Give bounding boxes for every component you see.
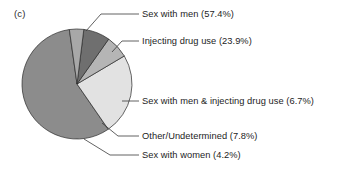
leader-line-sex-with-men [86, 14, 139, 31]
callout-label-other-undetermined: Other/Undetermined (7.8%) [142, 132, 257, 141]
leader-line-sex-with-women [84, 139, 139, 155]
callout-label-injecting-drug-use: Injecting drug use (23.9%) [142, 37, 252, 46]
callout-label-sex-with-men: Sex with men (57.4%) [142, 10, 234, 19]
callout-label-sex-with-women: Sex with women (4.2%) [142, 151, 241, 160]
callout-label-sex-with-men-and-injecting-drug-use: Sex with men & injecting drug use (6.7%) [142, 97, 314, 106]
figure-panel: (c) Sex with men (57.4%) Injecting drug … [0, 0, 350, 177]
